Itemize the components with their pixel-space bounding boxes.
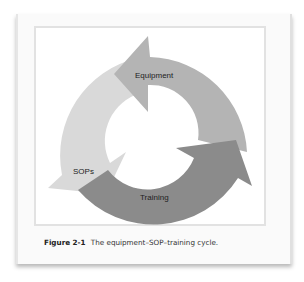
sops-label: SOPs	[73, 167, 94, 176]
figure-number: Figure 2-1	[44, 238, 86, 247]
equipment-arrow	[114, 36, 247, 152]
training-label: Training	[140, 193, 169, 202]
figure-caption-text: The equipment–SOP–training cycle.	[91, 238, 218, 247]
figure-caption: Figure 2-1 The equipment–SOP–training cy…	[44, 238, 218, 247]
equipment-label: Equipment	[135, 71, 174, 80]
